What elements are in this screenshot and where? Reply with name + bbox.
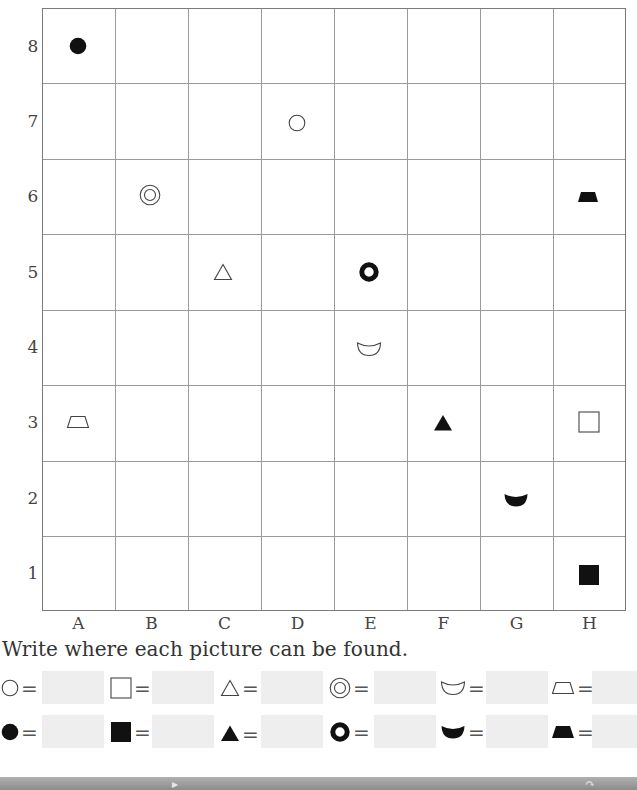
answer-open-circle-input[interactable] <box>42 671 104 704</box>
equals-sign: = <box>353 722 370 742</box>
answer-filled-trapezoid-input[interactable] <box>592 715 637 748</box>
equals-sign: = <box>468 678 485 698</box>
row-label-4: 4 <box>26 337 40 357</box>
grid-line <box>43 385 625 386</box>
answer-open-triangle-input[interactable] <box>261 671 323 704</box>
answer-open-crescent-input[interactable] <box>486 671 548 704</box>
answer-open-trapezoid-input[interactable] <box>592 671 637 704</box>
filled-circle-icon <box>1 723 19 741</box>
answer-thick-ring-input[interactable] <box>374 715 436 748</box>
col-label-b: B <box>115 613 188 633</box>
filled-trapezoid-icon <box>577 191 599 203</box>
answer-filled-triangle-input[interactable] <box>261 715 323 748</box>
col-label-e: E <box>334 613 407 633</box>
legend-open-square: = <box>110 671 151 704</box>
legend-filled-circle: = <box>1 715 38 748</box>
grid-line <box>43 159 625 160</box>
answer-double-circle-input[interactable] <box>374 671 436 704</box>
legend-open-trapezoid: = <box>551 671 594 704</box>
legend-filled-triangle: = <box>220 717 259 750</box>
legend-filled-square: = <box>110 715 151 748</box>
legend-double-circle: = <box>329 671 370 704</box>
row-label-8: 8 <box>26 36 40 56</box>
row-label-2: 2 <box>26 488 40 508</box>
open-triangle-icon <box>213 263 233 281</box>
row-label-1: 1 <box>26 563 40 583</box>
filled-square-icon <box>578 564 600 586</box>
filled-triangle-icon <box>433 415 453 432</box>
filled-square-icon <box>110 721 132 743</box>
footer-arrow-icon: ▸ <box>172 778 178 790</box>
grid-line <box>43 310 625 311</box>
open-circle-icon <box>1 679 19 697</box>
filled-trapezoid-icon <box>551 725 575 739</box>
open-circle-icon <box>288 114 306 132</box>
open-crescent-icon <box>356 341 382 357</box>
equals-sign: = <box>242 724 259 744</box>
double-circle-icon <box>139 184 161 206</box>
col-label-a: A <box>42 613 115 633</box>
equals-sign: = <box>134 678 151 698</box>
instruction-text: Write where each picture can be found. <box>2 637 408 661</box>
legend-filled-crescent: = <box>440 715 485 748</box>
open-trapezoid-icon <box>551 681 575 695</box>
thick-ring-icon <box>329 721 351 743</box>
col-label-d: D <box>261 613 334 633</box>
open-square-icon <box>578 411 600 433</box>
coordinate-grid <box>42 8 626 611</box>
row-label-5: 5 <box>26 262 40 282</box>
filled-crescent-icon <box>503 492 529 508</box>
double-circle-icon <box>329 677 351 699</box>
filled-triangle-icon <box>220 725 240 742</box>
footer-band <box>0 777 637 790</box>
row-label-3: 3 <box>26 412 40 432</box>
open-trapezoid-icon <box>66 415 90 429</box>
equals-sign: = <box>242 678 259 698</box>
col-label-g: G <box>480 613 553 633</box>
grid-line <box>43 83 625 84</box>
answer-filled-crescent-input[interactable] <box>486 715 548 748</box>
filled-circle-icon <box>69 37 87 55</box>
filled-crescent-icon <box>440 724 466 740</box>
open-crescent-icon <box>440 680 466 696</box>
row-label-6: 6 <box>26 186 40 206</box>
equals-sign: = <box>134 722 151 742</box>
footer-curl-icon: ↷ <box>585 778 595 790</box>
equals-sign: = <box>21 722 38 742</box>
col-label-c: C <box>188 613 261 633</box>
equals-sign: = <box>468 722 485 742</box>
row-label-7: 7 <box>26 111 40 131</box>
legend-filled-trapezoid: = <box>551 715 594 748</box>
answer-filled-square-input[interactable] <box>152 715 214 748</box>
grid-line <box>43 234 625 235</box>
thick-ring-icon <box>358 261 380 283</box>
equals-sign: = <box>21 678 38 698</box>
legend-open-triangle: = <box>220 671 259 704</box>
answer-open-square-input[interactable] <box>152 671 214 704</box>
legend-thick-ring: = <box>329 715 370 748</box>
grid-line <box>43 461 625 462</box>
legend-open-crescent: = <box>440 671 485 704</box>
open-square-icon <box>110 677 132 699</box>
equals-sign: = <box>353 678 370 698</box>
answer-filled-circle-input[interactable] <box>42 715 104 748</box>
open-triangle-icon <box>220 679 240 697</box>
col-label-h: H <box>553 613 626 633</box>
grid-line <box>43 536 625 537</box>
legend-open-circle: = <box>1 671 38 704</box>
col-label-f: F <box>407 613 480 633</box>
